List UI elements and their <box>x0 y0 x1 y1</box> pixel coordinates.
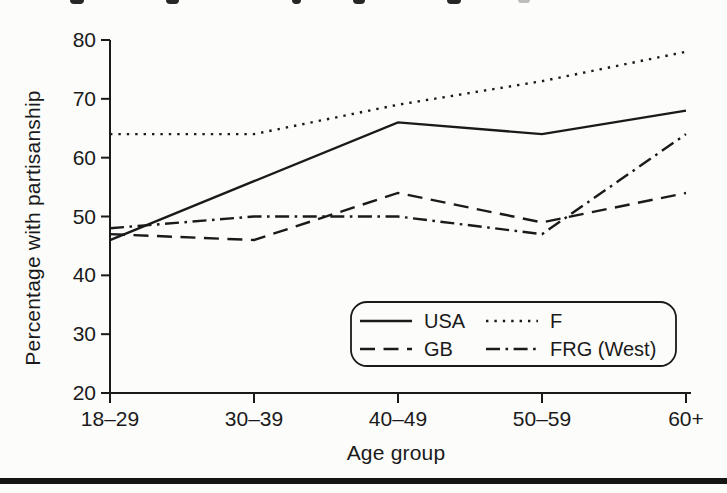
x-tick-label: 18–29 <box>81 407 139 430</box>
y-tick-label: 60 <box>73 146 96 169</box>
series-line-frg-west <box>110 134 686 234</box>
legend-label-usa: USA <box>424 310 466 332</box>
legend-label-f: F <box>550 310 562 332</box>
y-tick-label: 20 <box>73 381 96 404</box>
y-tick-label: 50 <box>73 205 96 228</box>
y-tick-label: 40 <box>73 263 96 286</box>
legend-label-frg-west: FRG (West) <box>550 338 656 360</box>
x-axis-title: Age group <box>347 441 446 465</box>
x-tick-label: 40–49 <box>369 407 427 430</box>
y-tick-label: 70 <box>73 87 96 110</box>
y-tick-label: 80 <box>73 28 96 51</box>
x-tick-label: 30–39 <box>225 407 283 430</box>
y-tick-label: 30 <box>73 322 96 345</box>
x-tick-label: 50–59 <box>513 407 571 430</box>
figure-page: Percentage with partisanship 20304050607… <box>0 0 727 493</box>
legend-label-gb: GB <box>424 338 453 360</box>
page-divider-rule <box>0 478 727 484</box>
x-tick-label: 60+ <box>668 407 704 430</box>
partisanship-line-chart: 2030405060708018–2930–3940–4950–5960+USA… <box>0 0 727 475</box>
